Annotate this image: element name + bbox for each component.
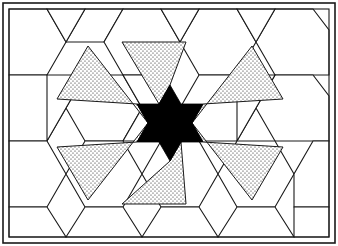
hex-r3-c4	[294, 207, 329, 237]
quilt-diagram	[0, 0, 338, 246]
quilt-svg-canvas	[0, 0, 338, 246]
